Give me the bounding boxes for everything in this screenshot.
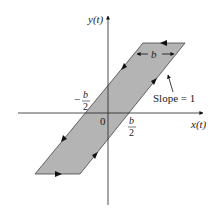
neg-half-denominator: 2 (83, 101, 88, 112)
origin-label: 0 (100, 115, 106, 127)
hysteresis-region (35, 43, 185, 174)
slope-pointer (168, 75, 173, 92)
hysteresis-diagram: b Slope = 1 − b 2 0 b 2 y(t) x(t) (0, 0, 214, 210)
pos-half-numerator: b (129, 115, 134, 126)
neg-half-numerator: b (83, 89, 88, 100)
y-axis-label: y(t) (87, 13, 104, 26)
slope-label: Slope = 1 (153, 92, 195, 104)
x-axis-label: x(t) (190, 118, 207, 131)
width-label: b (151, 48, 157, 60)
pos-half-denominator: 2 (129, 127, 134, 138)
neg-sign: − (74, 93, 80, 105)
